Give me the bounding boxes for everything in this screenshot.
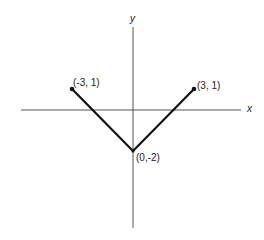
coordinate-graph <box>0 0 264 240</box>
y-axis-label: y <box>130 14 135 24</box>
point-right <box>192 87 197 92</box>
point-label-vertex: (0,-2) <box>136 153 160 163</box>
point-vertex <box>132 150 135 153</box>
point-label-left: (-3, 1) <box>73 78 100 88</box>
x-axis-label: x <box>247 104 252 114</box>
point-label-right: (3, 1) <box>197 81 220 91</box>
